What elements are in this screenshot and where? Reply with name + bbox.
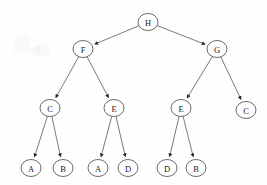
node-label: C (47, 104, 53, 114)
node-label: B (60, 164, 66, 174)
tree-diagram-canvas: HFGCEECABADDB (0, 0, 267, 185)
node-label: E (178, 104, 183, 114)
tree-edge (95, 26, 139, 44)
node-label: B (193, 164, 199, 174)
tree-node[interactable]: H (138, 14, 158, 31)
tree-node[interactable]: E (104, 100, 124, 117)
tree-edge (157, 26, 205, 45)
node-label: C (243, 106, 249, 116)
tree-node[interactable]: C (40, 100, 60, 117)
tree-edge (56, 57, 79, 98)
tree-edge (101, 116, 112, 156)
tree-edge (187, 57, 212, 98)
tree-edge (52, 116, 61, 156)
tree-node[interactable]: G (207, 41, 227, 58)
tree-node[interactable]: E (171, 100, 191, 117)
tree-node[interactable]: D (118, 160, 138, 177)
tree-edge (221, 57, 241, 99)
tree-edge (170, 116, 179, 156)
tree-edge (87, 57, 108, 98)
tree-edge (35, 116, 48, 157)
node-label: E (111, 104, 116, 114)
tree-node[interactable]: D (157, 160, 177, 177)
node-label: D (125, 164, 131, 174)
tree-node[interactable]: B (53, 160, 73, 177)
tree-node[interactable]: B (186, 160, 206, 177)
nodes-layer: HFGCEECABADDB (21, 14, 256, 177)
tree-node[interactable]: F (73, 41, 93, 58)
node-label: A (28, 164, 35, 174)
node-label: H (145, 18, 151, 28)
node-label: A (95, 164, 102, 174)
tree-node[interactable]: A (21, 160, 41, 177)
node-label: D (164, 164, 170, 174)
tree-edge (183, 116, 193, 156)
tree-edge (116, 116, 125, 156)
node-label: G (214, 45, 220, 55)
tree-node[interactable]: A (88, 160, 108, 177)
node-label: F (81, 45, 86, 55)
tree-node[interactable]: C (236, 102, 256, 119)
tree-graph: HFGCEECABADDB (0, 0, 267, 185)
